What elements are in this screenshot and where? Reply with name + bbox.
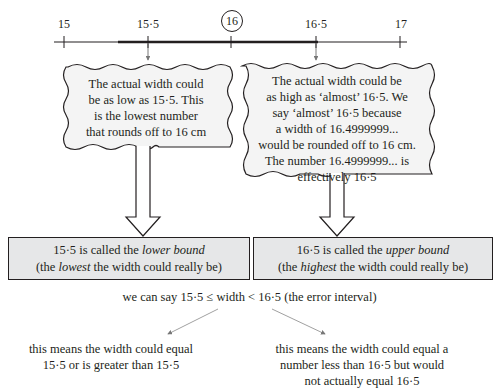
arrow-to-right-note (272, 309, 325, 334)
text-line: The number 16.4999999... is (242, 153, 432, 169)
tick-label-15-5: 15·5 (137, 17, 159, 32)
text-line: a width of 16.4999999... (242, 121, 432, 137)
upper-bound-line1: 16·5 is called the upper bound (254, 242, 492, 259)
text-line: not actually equal 16·5 (262, 373, 462, 389)
right-note: this means the width could equal a numbe… (262, 341, 462, 389)
upper-bound-box: 16·5 is called the upper bound (the high… (253, 237, 493, 280)
text: (the (278, 260, 301, 274)
left-bubble-text: The actual width could be as low as 15·5… (72, 76, 220, 140)
tick-label-15: 15 (58, 17, 70, 32)
text-line: The actual width could (72, 76, 220, 92)
text-line: number less than 16·5 but would (262, 357, 462, 373)
text-line: is the lowest number (72, 108, 220, 124)
text-line: be as low as 15·5. This (72, 92, 220, 108)
upper-bound-line2: (the highest the width could really be) (254, 259, 492, 276)
tick-label-17: 17 (395, 17, 407, 32)
text: (the (36, 260, 59, 274)
emphasis: lower bound (142, 243, 205, 257)
arrow-to-left-note (168, 309, 218, 334)
text-line: 15·5 or is greater than 15·5 (22, 357, 200, 373)
text: the width could really be) (90, 260, 222, 274)
text-line: as high as ‘almost’ 16·5. We (242, 89, 432, 105)
lower-bound-box: 15·5 is called the lower bound (the lowe… (8, 237, 250, 280)
emphasis: lowest (59, 260, 91, 274)
text-line: this means the width could equal (22, 341, 200, 357)
text-line: say ‘almost’ 16·5 because (242, 105, 432, 121)
text-line: this means the width could equal a (262, 341, 462, 357)
left-note: this means the width could equal 15·5 or… (22, 341, 200, 373)
text: the width could really be) (337, 260, 469, 274)
right-bubble-text: The actual width could be as high as ‘al… (242, 73, 432, 185)
error-interval-statement: we can say 15·5 ≤ width < 16·5 (the erro… (0, 290, 499, 305)
text: 16·5 is called the (297, 243, 386, 257)
text-line: The actual width could be (242, 73, 432, 89)
lower-bound-line1: 15·5 is called the lower bound (9, 242, 249, 259)
tick-label-16-circled: 16 (221, 10, 243, 32)
left-down-arrow (126, 146, 160, 236)
emphasis: upper bound (386, 243, 450, 257)
tick-label-16-5: 16·5 (305, 17, 327, 32)
text-line: effectively 16·5 (242, 169, 432, 185)
text-line: would be rounded off to 16 cm. (242, 137, 432, 153)
text: 15·5 is called the (53, 243, 142, 257)
text-line: that rounds off to 16 cm (72, 124, 220, 140)
lower-bound-line2: (the lowest the width could really be) (9, 259, 249, 276)
emphasis: highest (300, 260, 336, 274)
